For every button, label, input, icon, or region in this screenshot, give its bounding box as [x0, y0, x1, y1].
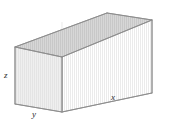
box-figure: z y x	[0, 0, 169, 130]
axis-label-x: x	[111, 93, 115, 102]
axis-label-y: y	[32, 110, 36, 119]
axis-label-z: z	[4, 71, 8, 80]
rectangular-box-drawing	[0, 0, 169, 130]
box-front-short-face	[15, 47, 62, 112]
